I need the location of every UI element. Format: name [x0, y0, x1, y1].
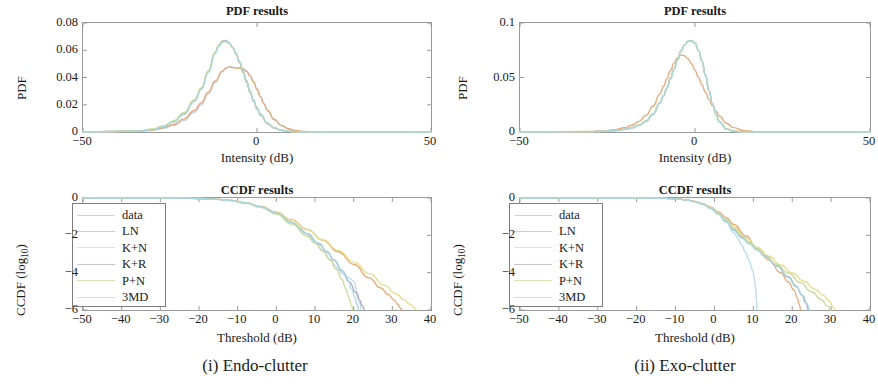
endo_ccdf-xtick-label: −40 — [111, 312, 131, 327]
exo_pdf-series-k-r — [520, 41, 870, 132]
exo_pdf-canvas — [520, 23, 870, 132]
exo_pdf-series-3md — [520, 41, 870, 132]
legend-swatch-p-n — [514, 280, 552, 281]
endo-ccdf-title: CCDF results — [82, 183, 432, 198]
endo_pdf-tick-marks — [83, 23, 431, 132]
legend-swatch-ln — [514, 231, 552, 232]
exo_pdf-xtick-label: 50 — [863, 134, 876, 149]
exo-ccdf-title: CCDF results — [519, 183, 871, 198]
exo-pdf-plot-area — [519, 22, 871, 133]
exo-ccdf-x-axis-label: Threshold (dB) — [519, 330, 871, 346]
endo-pdf-plot-area — [82, 22, 432, 133]
caption-endo-clutter: (i) Endo-clutter — [60, 356, 450, 376]
exo_pdf-xtick-label: 0 — [691, 134, 697, 149]
exo_pdf-series-ln — [520, 55, 870, 132]
legend-swatch-p-n — [77, 280, 115, 281]
endo_pdf-series-k-n — [83, 41, 431, 132]
legend-item-ln[interactable]: LN — [77, 223, 161, 239]
legend-label: P+N — [122, 275, 145, 288]
endo_pdf-xtick-label: 0 — [253, 134, 259, 149]
legend-swatch-data — [514, 215, 552, 216]
legend-item-k-r[interactable]: K+R — [77, 256, 161, 272]
exo_ccdf-xtick-label: −10 — [665, 312, 685, 327]
endo_ccdf-ytick-label: −2 — [38, 227, 78, 242]
exo-pdf-title: PDF results — [519, 4, 871, 19]
endo_ccdf-xtick-label: −30 — [150, 312, 170, 327]
legend-label: K+N — [559, 242, 584, 255]
endo_ccdf-ytick-label: −4 — [38, 264, 78, 279]
legend-label: data — [122, 209, 143, 222]
legend-label: 3MD — [122, 291, 148, 304]
exo_ccdf-xtick-label: 20 — [785, 312, 798, 327]
legend-item-k-n[interactable]: K+N — [77, 240, 161, 256]
legend-label: LN — [122, 225, 139, 238]
exo_ccdf-xtick-label: 10 — [746, 312, 759, 327]
legend-item-3md[interactable]: 3MD — [514, 289, 598, 305]
legend-label: LN — [559, 225, 576, 238]
exo-ccdf-legend: dataLNK+NK+RP+N3MD — [509, 203, 603, 307]
endo-ccdf-y-label-subscript: 10 — [20, 249, 30, 258]
legend-label: K+N — [122, 242, 147, 255]
endo-pdf-title: PDF results — [82, 4, 432, 19]
endo-pdf-x-axis-label: Intensity (dB) — [82, 150, 432, 166]
endo-pdf-y-axis-label: PDF — [14, 76, 30, 100]
legend-swatch-3md — [77, 297, 115, 298]
endo_ccdf-xtick-label: 30 — [385, 312, 398, 327]
endo_pdf-ytick-label: 0.02 — [38, 96, 78, 111]
legend-swatch-3md — [514, 297, 552, 298]
legend-item-ln[interactable]: LN — [514, 223, 598, 239]
exo_ccdf-xtick-label: 0 — [710, 312, 716, 327]
endo_pdf-series-data — [83, 67, 431, 132]
legend-item-k-n[interactable]: K+N — [514, 240, 598, 256]
endo-ccdf-y-axis-label: CCDF (log10) — [13, 244, 30, 316]
exo_ccdf-ytick-label: 0 — [475, 190, 515, 205]
exo_pdf-ytick-label: 0.1 — [475, 15, 515, 30]
legend-swatch-k-n — [77, 247, 115, 248]
endo_ccdf-ytick-label: −6 — [38, 302, 78, 317]
endo_ccdf-xtick-label: 40 — [424, 312, 437, 327]
endo-ccdf-x-axis-label: Threshold (dB) — [82, 330, 432, 346]
exo_ccdf-xtick-label: −40 — [548, 312, 568, 327]
legend-label: 3MD — [559, 291, 585, 304]
figure-root: PDF results PDF Intensity (dB) PDF resul… — [0, 0, 878, 388]
endo_pdf-xtick-label: 50 — [424, 134, 437, 149]
exo_ccdf-ytick-label: −2 — [475, 227, 515, 242]
legend-label: data — [559, 209, 580, 222]
exo_pdf-series-data — [520, 40, 870, 132]
legend-item-p-n[interactable]: P+N — [77, 273, 161, 289]
exo_pdf-ytick-label: 0.05 — [475, 69, 515, 84]
endo_pdf-ytick-label: 0.06 — [38, 42, 78, 57]
exo_pdf-series-p-n — [520, 41, 870, 132]
legend-item-p-n[interactable]: P+N — [514, 273, 598, 289]
legend-label: K+R — [122, 258, 146, 271]
endo_ccdf-xtick-label: 20 — [346, 312, 359, 327]
endo_pdf-ytick-label: 0.04 — [38, 69, 78, 84]
exo_ccdf-xtick-label: −30 — [587, 312, 607, 327]
endo_pdf-canvas — [83, 23, 431, 132]
legend-swatch-data — [77, 215, 115, 216]
legend-item-k-r[interactable]: K+R — [514, 256, 598, 272]
exo_ccdf-xtick-label: −20 — [626, 312, 646, 327]
exo-ccdf-y-label-subscript: 10 — [457, 249, 467, 258]
endo_ccdf-ytick-label: 0 — [38, 190, 78, 205]
exo_pdf-series-k-n — [520, 41, 870, 132]
exo_ccdf-ytick-label: −4 — [475, 264, 515, 279]
exo_ccdf-ytick-label: −6 — [475, 302, 515, 317]
legend-swatch-ln — [77, 231, 115, 232]
exo_ccdf-xtick-label: 40 — [863, 312, 876, 327]
legend-item-data[interactable]: data — [77, 207, 161, 223]
legend-item-3md[interactable]: 3MD — [77, 289, 161, 305]
endo_pdf-ytick-label: 0.08 — [38, 15, 78, 30]
exo_pdf-tick-marks — [520, 23, 870, 132]
legend-swatch-k-r — [77, 264, 115, 265]
legend-swatch-k-r — [514, 264, 552, 265]
exo-pdf-x-axis-label: Intensity (dB) — [519, 150, 871, 166]
exo-pdf-y-axis-label: PDF — [455, 76, 471, 100]
endo_ccdf-xtick-label: 10 — [308, 312, 321, 327]
endo_ccdf-xtick-label: −20 — [188, 312, 208, 327]
endo_pdf-series-ln — [83, 67, 431, 132]
endo_pdf-ytick-label: 0 — [38, 124, 78, 139]
legend-item-data[interactable]: data — [514, 207, 598, 223]
legend-swatch-k-n — [514, 247, 552, 248]
endo-ccdf-legend: dataLNK+NK+RP+N3MD — [72, 203, 166, 307]
